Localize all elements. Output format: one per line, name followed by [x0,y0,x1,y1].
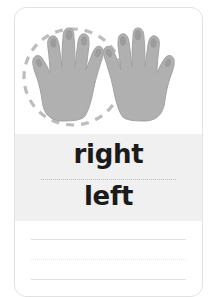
answer-options-band: right left [15,134,202,221]
writing-lines-area [15,221,202,297]
nail-icon [50,38,56,48]
nail-icon [150,38,156,48]
nail-icon [120,36,126,46]
worksheet-card: right left [14,7,203,297]
hands-illustration [15,8,202,134]
answer-option-right[interactable]: right [15,138,202,170]
right-hand-figure[interactable] [104,28,175,121]
answer-option-left[interactable]: left [15,180,202,212]
nail-icon [66,30,73,40]
writing-line-bottom [31,279,186,280]
writing-line-middle-dotted [31,259,186,260]
left-hand-figure[interactable] [33,28,104,121]
nail-icon [135,30,142,40]
nail-icon [81,36,87,46]
writing-line-top [31,239,186,240]
two-hands-illustration-svg [15,8,202,134]
